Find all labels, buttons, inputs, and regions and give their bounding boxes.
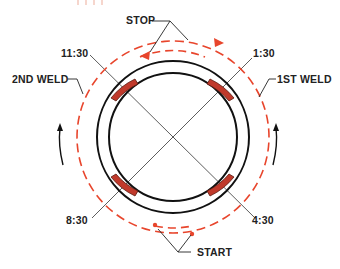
pipe-weld-diagram <box>0 0 340 269</box>
label-start: START <box>197 246 232 258</box>
label-1st-weld: 1ST WELD <box>277 73 332 85</box>
top-tick-marks <box>78 0 102 5</box>
left-direction-arrow-icon <box>57 123 63 165</box>
tack-weld-130 <box>207 79 234 101</box>
stop-arrow-right-icon <box>214 38 224 47</box>
label-1130: 11:30 <box>61 47 88 59</box>
center-mark-icon <box>170 134 176 140</box>
stop-arrow-left-icon <box>140 51 150 60</box>
label-830: 8:30 <box>66 214 88 226</box>
right-direction-arrow-icon <box>273 123 279 165</box>
label-430: 4:30 <box>252 214 274 226</box>
label-130: 1:30 <box>253 47 275 59</box>
tack-weld-1130 <box>111 79 138 101</box>
label-2nd-weld: 2ND WELD <box>12 73 68 85</box>
start-dot-left <box>153 223 157 227</box>
weld-start-arc-inner <box>155 226 192 228</box>
label-stop: STOP <box>126 14 155 26</box>
